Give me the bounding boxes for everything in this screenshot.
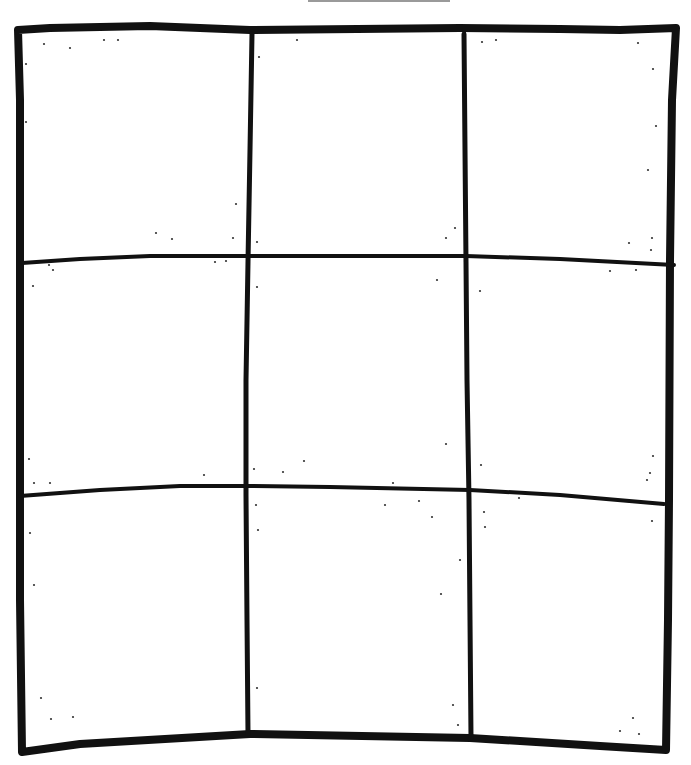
grid-horizontal-lines (20, 256, 674, 504)
speck (257, 529, 259, 531)
grid-outer-frame (18, 26, 676, 752)
speck (483, 511, 485, 513)
speck (480, 464, 482, 466)
speck (384, 504, 386, 506)
speck (652, 68, 654, 70)
speck (646, 479, 648, 481)
speck (651, 520, 653, 522)
speck (436, 279, 438, 281)
speck (445, 237, 447, 239)
speck (50, 718, 52, 720)
speck (32, 285, 34, 287)
speck (495, 39, 497, 41)
speck (484, 526, 486, 528)
speck (296, 39, 298, 41)
speck (638, 733, 640, 735)
speck (253, 468, 255, 470)
speck (40, 697, 42, 699)
speck (72, 716, 74, 718)
speck (225, 260, 227, 262)
speck (459, 559, 461, 561)
speck (649, 472, 651, 474)
speck (117, 39, 119, 41)
speck (440, 593, 442, 595)
speck (609, 270, 611, 272)
speck (303, 460, 305, 462)
speck (25, 121, 27, 123)
speck (457, 724, 459, 726)
speck (255, 504, 257, 506)
horizontal-divider-1 (22, 256, 674, 265)
speck (518, 497, 520, 499)
speck (25, 63, 27, 65)
speck (235, 203, 237, 205)
speck (632, 717, 634, 719)
speck (155, 232, 157, 234)
speck (203, 474, 205, 476)
speck (650, 249, 652, 251)
vertical-divider-2 (464, 34, 471, 738)
speck (652, 455, 654, 457)
speck (103, 39, 105, 41)
speck (214, 261, 216, 263)
speck (282, 471, 284, 473)
speck (29, 532, 31, 534)
speck (392, 482, 394, 484)
speck (445, 443, 447, 445)
speck (33, 584, 35, 586)
speck (481, 41, 483, 43)
speck (628, 242, 630, 244)
speck (479, 290, 481, 292)
paper-specks (25, 39, 657, 735)
horizontal-divider-2 (20, 486, 664, 504)
speck (52, 269, 54, 271)
speck (232, 237, 234, 239)
speck (256, 687, 258, 689)
speck (33, 482, 35, 484)
speck (655, 125, 657, 127)
speck (418, 500, 420, 502)
speck (651, 237, 653, 239)
hand-drawn-grid (0, 0, 691, 765)
speck (452, 704, 454, 706)
speck (256, 286, 258, 288)
speck (619, 730, 621, 732)
speck (69, 47, 71, 49)
vertical-divider-1 (246, 34, 252, 734)
speck (635, 269, 637, 271)
speck (28, 458, 30, 460)
speck (431, 516, 433, 518)
speck (258, 56, 260, 58)
speck (256, 241, 258, 243)
speck (43, 43, 45, 45)
grid-vertical-lines (246, 34, 471, 738)
speck (48, 264, 50, 266)
speck (171, 238, 173, 240)
speck (49, 482, 51, 484)
speck (637, 42, 639, 44)
speck (454, 227, 456, 229)
speck (647, 169, 649, 171)
